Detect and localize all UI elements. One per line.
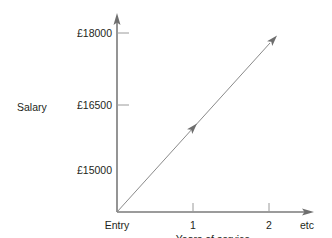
y-axis-title: Salary [17,101,48,113]
y-tick-label-18000: £18000 [77,27,112,39]
x-tick-label-etc: etc [300,219,314,231]
x-tick-label-1: 1 [190,219,196,231]
y-tick-label-15000: £15000 [77,164,112,176]
x-tick-label-2: 2 [266,219,272,231]
y-tick-label-16500: £16500 [77,99,112,111]
x-tick-label-entry: Entry [105,219,130,231]
x-axis-title: Years of service [176,233,250,238]
salary-chart: £18000 £16500 £15000 Salary Entry 1 2 et… [0,0,332,238]
